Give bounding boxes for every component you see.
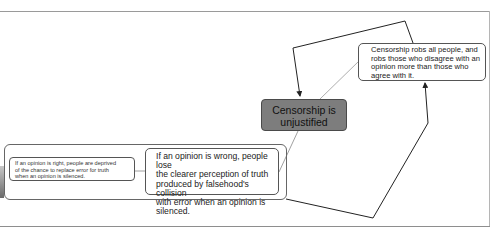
central-claim-text: unjustified (262, 116, 346, 128)
node-text-line: If an opinion is right, people are depri… (15, 160, 129, 167)
node-text-line: of the chance to replace error for truth (15, 167, 129, 174)
node-text-line: when an opinion is silenced. (15, 173, 129, 180)
node-text-line: silenced. (156, 207, 278, 216)
node-opinion-right[interactable]: If an opinion is right, people are depri… (9, 157, 135, 181)
node-censorship-robs[interactable]: Censorship robs all people, and robs tho… (358, 43, 486, 81)
node-text-line: produced by falsehood's collision (156, 180, 278, 198)
node-opinion-wrong[interactable]: If an opinion is wrong, people lose the … (145, 148, 279, 195)
central-claim-node[interactable]: Censorship is unjustified (261, 99, 347, 131)
central-claim-text: Censorship is (262, 104, 346, 116)
node-text-line: If an opinion is wrong, people lose (156, 152, 278, 170)
link-robs-to-center (320, 61, 359, 99)
node-text-line: agree with it. (371, 72, 485, 81)
